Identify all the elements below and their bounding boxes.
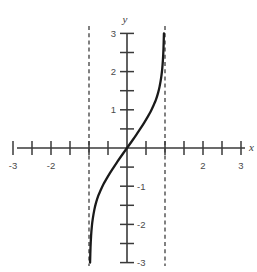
y-tick-label: 3 <box>111 28 116 39</box>
y-tick-label: -3 <box>137 257 145 268</box>
x-tick-label: 2 <box>200 160 205 171</box>
y-axis-label: y <box>122 13 128 25</box>
x-tick-label: -2 <box>47 160 55 171</box>
graph-figure: -3-223 321-1-2-3 x y <box>0 0 257 272</box>
coordinate-plane: -3-223 321-1-2-3 x y <box>0 0 257 272</box>
y-tick-label: 2 <box>111 66 116 77</box>
x-axis-label: x <box>248 141 254 153</box>
y-tick-label: -1 <box>137 181 145 192</box>
y-tick-label: -2 <box>137 219 145 230</box>
x-tick-label: -3 <box>9 160 17 171</box>
y-tick-label: 1 <box>111 104 116 115</box>
x-tick-label: 3 <box>238 160 243 171</box>
